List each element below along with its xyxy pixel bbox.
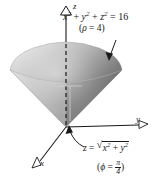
sphere-eq-value: 16: [118, 11, 128, 22]
cone-eq-plus: +: [113, 143, 118, 153]
square-root-icon: x2 + y2: [97, 141, 129, 154]
phi-close-paren: ): [121, 162, 124, 172]
sphere-eq-exp-z: 2: [104, 10, 108, 18]
cone-eq-var-z: z: [83, 143, 87, 153]
rho-symbol: ρ: [82, 23, 87, 33]
rho-note-label: (ρ = 4): [79, 24, 105, 34]
rho-equals: =: [89, 23, 94, 33]
figure-canvas: [0, 0, 154, 179]
y-axis-line: [66, 125, 139, 127]
cone-eq-equals: =: [89, 143, 94, 153]
axis-label-y: y: [136, 115, 140, 124]
x-axis-line: [40, 127, 66, 161]
sphere-eq-plus-1: +: [73, 11, 79, 22]
pi-over-four-fraction: π4: [115, 159, 121, 176]
sphere-equation-label: x2 + y2 + z2 = 16: [63, 11, 128, 22]
phi-symbol: ϕ: [100, 162, 105, 172]
phi-equals: =: [107, 162, 112, 172]
cone-leader-line: [70, 131, 84, 147]
axis-label-z: z: [73, 2, 77, 11]
phi-denominator: 4: [115, 168, 121, 176]
cone-equation-label: z = x2 + y2: [83, 141, 129, 154]
cone-eq-exp-y: 2: [125, 141, 128, 148]
sphere-eq-plus-2: +: [92, 11, 98, 22]
axis-label-x: x: [40, 159, 44, 168]
math-figure-ice-cream-cone: z y x x2 + y2 + z2 = 16 (ρ = 4) z = x2 +…: [0, 0, 154, 179]
phi-note-label: (ϕ = π4): [97, 159, 124, 176]
y-axis-arrowhead-icon: [139, 121, 148, 129]
cone-eq-exp-x: 2: [107, 141, 110, 148]
sphere-eq-equals: =: [110, 11, 116, 22]
sphere-eq-exp-x: 2: [67, 10, 71, 18]
rho-close-paren: ): [102, 23, 105, 33]
sphere-eq-exp-y: 2: [86, 10, 90, 18]
radicand-group: x2 + y2: [102, 141, 129, 154]
